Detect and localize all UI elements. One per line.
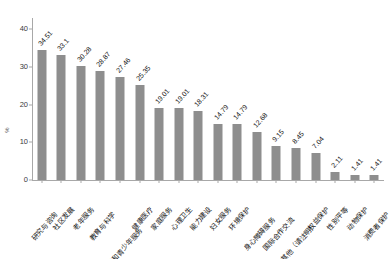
bar-group[interactable]: 19.01心理卫生 — [169, 18, 189, 180]
bar[interactable] — [115, 77, 124, 180]
bar-group[interactable]: 25.35健康医疗 — [130, 18, 150, 180]
bar[interactable] — [135, 85, 144, 181]
x-tick-mark — [335, 180, 336, 183]
bar[interactable] — [96, 71, 105, 180]
bar-group[interactable]: 1.41消费者保护 — [364, 18, 384, 180]
bar[interactable] — [174, 108, 183, 180]
bar-group[interactable]: 12.68身心障碍服务 — [247, 18, 267, 180]
bar[interactable] — [311, 153, 320, 180]
bar-value-label: 9.15 — [271, 128, 285, 143]
bar[interactable] — [272, 146, 281, 180]
x-category-label: 教育与科学 — [89, 211, 118, 242]
x-tick-mark — [198, 180, 199, 183]
x-tick-mark — [354, 180, 355, 183]
bar-group[interactable]: 9.15国际合作交流 — [267, 18, 287, 180]
x-tick-mark — [295, 180, 296, 183]
x-tick-mark — [139, 180, 140, 183]
y-tick-label: 30 — [20, 63, 28, 71]
bar-value-label: 7.04 — [310, 136, 324, 151]
bar-value-label: 33.1 — [56, 38, 70, 53]
x-tick-mark — [276, 180, 277, 183]
x-tick-mark — [256, 180, 257, 183]
y-tick-label: 40 — [20, 26, 28, 34]
bar[interactable] — [194, 111, 203, 180]
x-tick-mark — [100, 180, 101, 183]
bar-value-label: 2.11 — [330, 155, 344, 169]
bar-group[interactable]: 34.51研究与咨询 — [32, 18, 52, 180]
bar[interactable] — [37, 50, 46, 180]
x-axis-line — [32, 180, 384, 181]
x-tick-mark — [80, 180, 81, 183]
x-tick-mark — [237, 180, 238, 183]
y-axis-label-text: % — [4, 127, 10, 132]
bar-group[interactable]: 18.31能力建设 — [188, 18, 208, 180]
y-axis-label: % — [1, 0, 13, 259]
bar[interactable] — [213, 124, 222, 180]
bar-group[interactable]: 33.1社区发展 — [52, 18, 72, 180]
x-tick-mark — [159, 180, 160, 183]
bar-group[interactable]: 28.87教育与科学 — [91, 18, 111, 180]
x-category-label: 消费者保护 — [362, 211, 391, 242]
bar-group[interactable]: 8.45其他（请注明） — [286, 18, 306, 180]
bar[interactable] — [57, 55, 66, 180]
bar[interactable] — [252, 132, 261, 180]
plot-area: 010203040 34.51研究与咨询33.1社区发展30.28老年服务28.… — [32, 18, 384, 180]
x-tick-mark — [41, 180, 42, 183]
bar-group[interactable]: 19.01家庭服务 — [149, 18, 169, 180]
bar[interactable] — [331, 172, 340, 180]
y-tick-label: 20 — [20, 101, 28, 109]
x-tick-mark — [315, 180, 316, 183]
bar-value-label: 8.45 — [291, 130, 305, 145]
x-tick-mark — [119, 180, 120, 183]
bar-value-label: 1.41 — [369, 157, 383, 172]
bar-group[interactable]: 27.46儿童和青少年服务 — [110, 18, 130, 180]
x-tick-mark — [178, 180, 179, 183]
bar-group[interactable]: 30.28老年服务 — [71, 18, 91, 180]
bar-group[interactable]: 1.41动物保护 — [345, 18, 365, 180]
bar-chart: % 010203040 34.51研究与咨询33.1社区发展30.28老年服务2… — [0, 0, 392, 259]
x-tick-mark — [374, 180, 375, 183]
bar-group[interactable]: 14.79妇女服务 — [208, 18, 228, 180]
bar[interactable] — [291, 148, 300, 180]
y-tick-label: 0 — [24, 176, 28, 184]
bar-group[interactable]: 2.11性别平等 — [325, 18, 345, 180]
bar-group[interactable]: 14.79环境保护 — [228, 18, 248, 180]
x-tick-mark — [61, 180, 62, 183]
bar[interactable] — [155, 108, 164, 180]
y-tick-label: 10 — [20, 139, 28, 147]
x-tick-mark — [217, 180, 218, 183]
bar[interactable] — [76, 66, 85, 180]
bar[interactable] — [233, 124, 242, 180]
bar-group[interactable]: 7.04权益保护 — [306, 18, 326, 180]
x-category-label: 儿童和青少年服务 — [101, 227, 144, 259]
bar-value-label: 1.41 — [349, 157, 363, 172]
